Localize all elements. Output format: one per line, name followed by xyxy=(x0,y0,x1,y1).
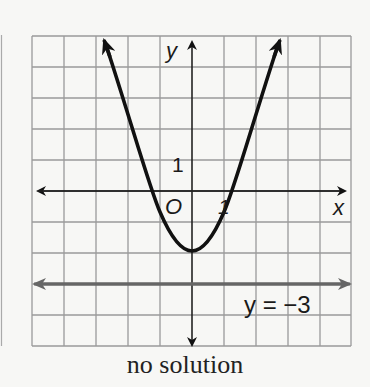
y-tick-label: 1 xyxy=(172,153,184,176)
caption: no solution xyxy=(0,350,370,380)
parabola-right-arrow-icon xyxy=(274,40,280,57)
x-tick-label: 1 xyxy=(218,195,230,218)
line-label: y = −3 xyxy=(244,291,311,318)
y-axis-label: y xyxy=(164,38,179,63)
x-axis-label: x xyxy=(332,195,345,220)
graph: y x O 1 1 y = −3 xyxy=(0,0,370,387)
origin-label: O xyxy=(165,194,182,219)
parabola-left-arrow-icon xyxy=(104,40,110,57)
